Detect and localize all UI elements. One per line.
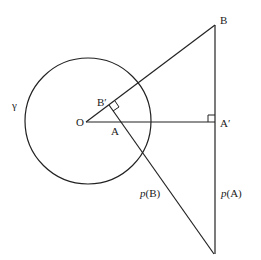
label-gamma: γ xyxy=(11,99,17,111)
label-polar-A-arg: (A) xyxy=(227,187,243,200)
label-O: O xyxy=(76,116,84,128)
label-A: A xyxy=(111,125,119,137)
label-polar-A: p(A) xyxy=(220,187,242,200)
label-A-prime: A′ xyxy=(220,117,230,129)
label-polar-B: p(B) xyxy=(139,187,161,200)
label-polar-B-arg: (B) xyxy=(146,187,161,200)
diagram-canvas: B A′ O A B′ γ p(B) p(A) xyxy=(0,0,261,260)
geometry-figure: B A′ O A B′ γ p(B) p(A) xyxy=(0,0,261,260)
right-angle-mark-A-prime xyxy=(208,115,215,122)
line-polar-B xyxy=(109,105,214,254)
label-B-prime: B′ xyxy=(97,96,107,108)
right-angle-mark-B-prime xyxy=(113,101,119,111)
label-B: B xyxy=(220,14,227,26)
